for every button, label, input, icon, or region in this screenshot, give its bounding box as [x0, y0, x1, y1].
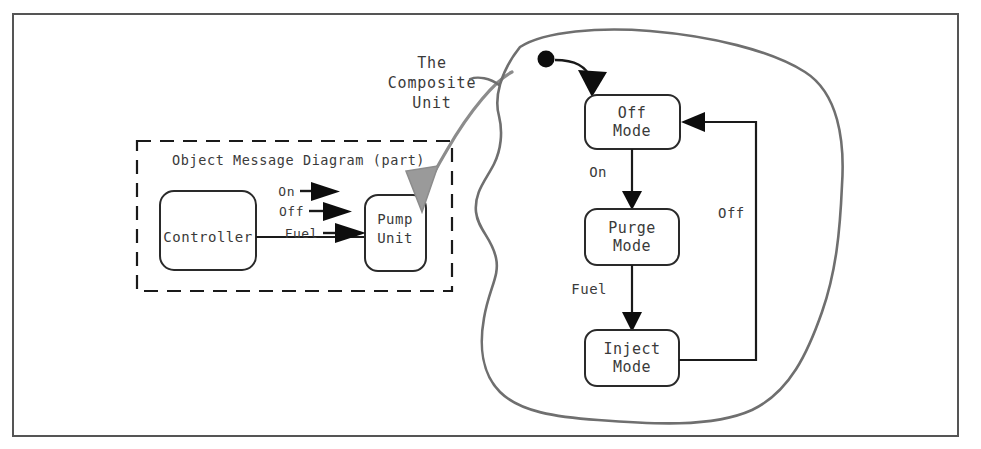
message-off[interactable]: Off [279, 202, 352, 221]
purge-mode-label-line2: Mode [613, 237, 651, 255]
object-message-diagram-panel: Object Message Diagram (part) Controller… [137, 141, 452, 291]
transition-fuel-label: Fuel [571, 281, 607, 297]
initial-state-dot [538, 51, 555, 68]
message-on-label: On [278, 184, 295, 199]
message-fuel-label: Fuel [285, 226, 318, 241]
initial-transition-arrowhead [578, 70, 607, 97]
state-purge-mode[interactable]: Purge Mode [585, 209, 679, 265]
transition-off-line [679, 122, 756, 360]
object-controller[interactable]: Controller [160, 191, 256, 270]
callout-line-2: Composite [388, 74, 476, 92]
transition-on[interactable]: On [589, 149, 642, 210]
message-fuel-arrowhead [335, 223, 366, 243]
message-on-arrowhead [311, 182, 340, 201]
inject-mode-label-line2: Mode [613, 358, 651, 376]
state-inject-mode[interactable]: Inject Mode [585, 330, 679, 386]
diagram-canvas: Object Message Diagram (part) Controller… [0, 0, 981, 449]
callout-line-1: The [417, 54, 447, 72]
state-off-mode[interactable]: Off Mode [585, 95, 680, 149]
transition-on-label: On [589, 164, 607, 180]
page-border [13, 14, 958, 436]
message-off-arrowhead [323, 202, 352, 221]
transition-off[interactable]: Off [679, 112, 756, 360]
initial-state[interactable] [538, 51, 608, 98]
message-off-label: Off [279, 204, 304, 219]
pump-unit-label-line2: Unit [377, 230, 413, 246]
inject-mode-label-line1: Inject [603, 340, 660, 358]
message-on[interactable]: On [278, 182, 340, 201]
callout-line-3: Unit [412, 94, 451, 112]
transition-off-label: Off [718, 205, 745, 221]
pump-unit-label-line1: Pump [377, 211, 413, 227]
transition-off-arrowhead [681, 112, 705, 132]
object-message-diagram-title: Object Message Diagram (part) [172, 152, 425, 168]
composite-unit-cloud-group: Off Mode On Purge Mode Fuel [470, 30, 843, 424]
off-mode-label-line2: Mode [613, 122, 651, 140]
diagram-figure: Object Message Diagram (part) Controller… [0, 0, 981, 449]
message-fuel[interactable]: Fuel [285, 223, 366, 243]
controller-label: Controller [163, 229, 252, 245]
transition-on-arrowhead [622, 191, 642, 210]
off-mode-label-line1: Off [618, 104, 647, 122]
composite-unit-callout: The Composite Unit [388, 54, 512, 212]
purge-mode-label-line1: Purge [608, 219, 656, 237]
object-pump-unit[interactable]: Pump Unit [365, 195, 426, 271]
transition-fuel[interactable]: Fuel [571, 265, 642, 332]
